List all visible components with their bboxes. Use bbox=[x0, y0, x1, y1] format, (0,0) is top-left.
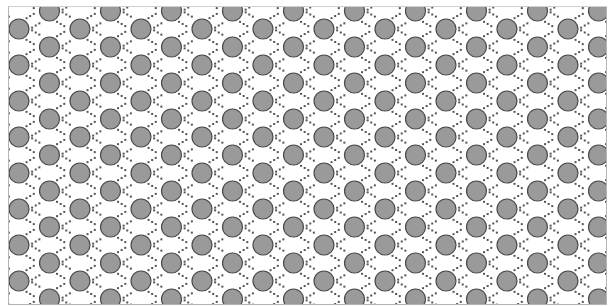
circle-dot bbox=[131, 127, 151, 147]
circle-dot bbox=[284, 145, 304, 165]
circle-dot bbox=[101, 145, 121, 165]
circle-dot bbox=[284, 109, 304, 129]
circle-dot bbox=[436, 55, 456, 75]
circle-dot bbox=[497, 235, 517, 255]
circle-dot bbox=[40, 7, 60, 21]
circle-dot bbox=[223, 145, 243, 165]
circle-dot bbox=[9, 271, 29, 291]
circle-dot bbox=[40, 73, 60, 93]
circle-dot bbox=[345, 181, 365, 201]
circle-dot bbox=[131, 235, 151, 255]
circle-dot bbox=[101, 181, 121, 201]
circle-dot bbox=[192, 163, 212, 183]
circle-dot bbox=[192, 91, 212, 111]
circle-dot bbox=[558, 235, 578, 255]
circle-dot bbox=[284, 37, 304, 57]
circle-dot bbox=[558, 199, 578, 219]
circle-dot bbox=[345, 7, 365, 21]
circle-dot bbox=[314, 127, 334, 147]
circle-dot bbox=[70, 55, 90, 75]
circle-dot bbox=[406, 73, 426, 93]
circle-dot bbox=[284, 217, 304, 237]
circle-dot bbox=[40, 217, 60, 237]
circle-dot bbox=[101, 73, 121, 93]
circle-dot bbox=[9, 163, 29, 183]
circle-dot bbox=[467, 289, 487, 304]
circle-dot bbox=[375, 55, 395, 75]
circle-dot bbox=[101, 37, 121, 57]
circle-dot bbox=[467, 217, 487, 237]
circle-dot bbox=[406, 217, 426, 237]
circle-dot bbox=[436, 235, 456, 255]
circle-dot bbox=[223, 289, 243, 304]
circle-dot bbox=[406, 289, 426, 304]
circle-dot bbox=[253, 235, 273, 255]
circle-dot bbox=[70, 127, 90, 147]
circle-dot bbox=[375, 19, 395, 39]
circle-dot bbox=[131, 199, 151, 219]
circle-dot bbox=[345, 73, 365, 93]
circle-dot bbox=[497, 91, 517, 111]
circle-dot bbox=[284, 181, 304, 201]
circle-dot bbox=[101, 217, 121, 237]
pattern-frame bbox=[8, 6, 607, 305]
circle-dot bbox=[40, 37, 60, 57]
circle-dot bbox=[162, 109, 182, 129]
circle-dot bbox=[528, 145, 548, 165]
circle-dot bbox=[192, 127, 212, 147]
circle-dot bbox=[497, 271, 517, 291]
circle-dot bbox=[467, 109, 487, 129]
circle-dot bbox=[40, 145, 60, 165]
circle-dot bbox=[436, 163, 456, 183]
circle-dot bbox=[467, 37, 487, 57]
circle-dot bbox=[528, 7, 548, 21]
circle-dot bbox=[345, 109, 365, 129]
circle-dot bbox=[223, 217, 243, 237]
circle-dot bbox=[528, 37, 548, 57]
circle-dot bbox=[101, 289, 121, 304]
circle-dot bbox=[589, 253, 607, 273]
circle-dot bbox=[345, 289, 365, 304]
circle-dot bbox=[497, 19, 517, 39]
circle-dot bbox=[375, 91, 395, 111]
circle-dot bbox=[528, 109, 548, 129]
circle-dot bbox=[70, 91, 90, 111]
circle-dot bbox=[558, 163, 578, 183]
circle-dot bbox=[528, 253, 548, 273]
circle-dot bbox=[253, 199, 273, 219]
circle-dot bbox=[40, 109, 60, 129]
circle-dot bbox=[528, 73, 548, 93]
circle-dot bbox=[436, 199, 456, 219]
circle-dot bbox=[223, 181, 243, 201]
circle-dot bbox=[162, 289, 182, 304]
circle-dot bbox=[406, 253, 426, 273]
circle-dot bbox=[528, 289, 548, 304]
circle-dot bbox=[467, 145, 487, 165]
circle-dot bbox=[375, 163, 395, 183]
circle-dot bbox=[192, 235, 212, 255]
circle-dot bbox=[223, 37, 243, 57]
circle-dot bbox=[467, 181, 487, 201]
circle-dot bbox=[497, 163, 517, 183]
circle-dot bbox=[223, 73, 243, 93]
circle-dot bbox=[345, 145, 365, 165]
circle-dot bbox=[314, 19, 334, 39]
circle-dot bbox=[162, 7, 182, 21]
circle-dot bbox=[223, 7, 243, 21]
circle-dot bbox=[528, 217, 548, 237]
circle-dot-pattern bbox=[9, 7, 606, 304]
circle-dot bbox=[40, 253, 60, 273]
circle-dot bbox=[253, 19, 273, 39]
circle-dot bbox=[314, 91, 334, 111]
circle-dot bbox=[314, 55, 334, 75]
circle-dot bbox=[131, 55, 151, 75]
circle-dot bbox=[192, 271, 212, 291]
circle-dot bbox=[589, 73, 607, 93]
circle-dot bbox=[192, 199, 212, 219]
circle-dot bbox=[497, 127, 517, 147]
circle-dot bbox=[345, 253, 365, 273]
circle-dot bbox=[9, 235, 29, 255]
circle-dot bbox=[589, 37, 607, 57]
circle-dot bbox=[406, 181, 426, 201]
circle-dot bbox=[467, 253, 487, 273]
